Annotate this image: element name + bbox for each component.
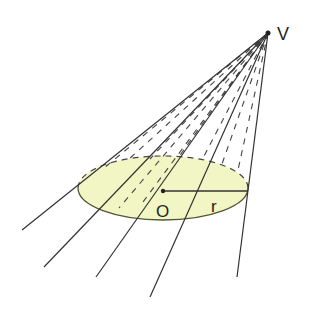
vertex-label: V bbox=[277, 24, 289, 44]
center-point bbox=[161, 189, 165, 193]
radius-label: r bbox=[211, 197, 217, 216]
vertex-point bbox=[266, 31, 271, 36]
ray-2 bbox=[44, 33, 268, 267]
center-label: O bbox=[156, 202, 169, 221]
cone-diagram: V O r bbox=[0, 0, 319, 315]
